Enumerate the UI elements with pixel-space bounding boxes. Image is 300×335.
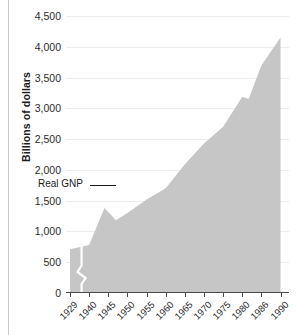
chart-figure: Billions of dollars 05001,0001,5002,0002… (0, 0, 300, 335)
y-tick-label: 3,500 (13, 72, 61, 84)
y-tick-label: 1,000 (13, 225, 61, 237)
y-tick-label: 2,500 (13, 133, 61, 145)
y-tick-label: 3,000 (13, 102, 61, 114)
real-gnp-area-series (66, 16, 289, 293)
x-axis-tick-labels: 1929194019451950195519601965197019751980… (66, 293, 289, 335)
y-tick-label: 2,000 (13, 164, 61, 176)
series-annotation-label: Real GNP (38, 178, 83, 189)
y-tick-label: 1,500 (13, 195, 61, 207)
y-tick-label: 500 (13, 256, 61, 268)
y-tick-label: 4,500 (13, 10, 61, 22)
y-axis-tick-labels: 05001,0001,5002,0002,5003,0003,5004,0004… (13, 0, 61, 335)
series-annotation-leader-line (90, 185, 116, 186)
page-edge-rule (8, 0, 9, 335)
y-tick-label: 4,000 (13, 41, 61, 53)
plot-area: 1929194019451950195519601965197019751980… (66, 16, 289, 293)
y-tick-label: 0 (13, 287, 61, 299)
